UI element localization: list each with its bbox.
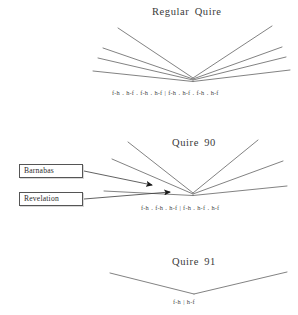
quire-diagram: Regular Quire f-h . h-f . f-h . h-f | f-… [0, 0, 298, 315]
bifolium-line [110, 273, 194, 294]
quire-91-formula: f-h | h-f [173, 298, 195, 305]
bifolium-line [194, 272, 287, 294]
quire-91-lines [0, 0, 298, 315]
